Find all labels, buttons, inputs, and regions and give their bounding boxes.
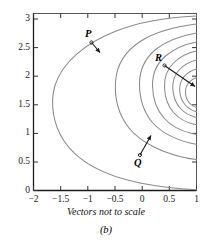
contour-curve-6	[173, 60, 197, 117]
contour-curve-1	[53, 16, 197, 190]
vector-p	[90, 41, 100, 53]
point-label-q: Q	[134, 158, 142, 169]
y-tick-label-0: 0	[8, 186, 30, 196]
y-tick-label-1: 1	[8, 129, 30, 139]
y-tick-label-3: 3	[8, 14, 30, 24]
x-tick-label-0: 0	[140, 195, 145, 205]
y-tick-label-1_5: 1.5	[8, 100, 30, 110]
contour-curve-3	[140, 33, 197, 144]
figure-panel-b: 3 2.5 2 1.5 1 0.5 0 −2 −1.5 −1 −0.5 0 0.…	[0, 0, 212, 244]
contour-curves	[53, 16, 197, 190]
y-axis-ticks	[34, 19, 197, 191]
x-tick-label-neg2: −2	[28, 195, 38, 205]
x-tick-label-neg1: −1	[83, 195, 93, 205]
contour-curve-8	[185, 78, 196, 108]
contour-curve-2	[115, 24, 196, 160]
x-tick-label-neg0_5: −0.5	[106, 195, 123, 205]
y-tick-label-2: 2	[8, 71, 30, 81]
x-tick-label-1: 1	[194, 195, 199, 205]
x-tick-label-neg1_5: −1.5	[52, 195, 69, 205]
point-label-p: P	[85, 29, 91, 40]
y-tick-label-0_5: 0.5	[8, 157, 30, 167]
figure-panel-label: (b)	[0, 224, 212, 235]
point-label-r: R	[155, 53, 162, 64]
figure-note: Vectors not to scale	[0, 206, 212, 217]
vector-r	[163, 64, 195, 87]
x-tick-label-0_5: 0.5	[163, 195, 175, 205]
contour-curve-5	[164, 51, 196, 125]
y-tick-label-2_5: 2.5	[8, 43, 30, 53]
